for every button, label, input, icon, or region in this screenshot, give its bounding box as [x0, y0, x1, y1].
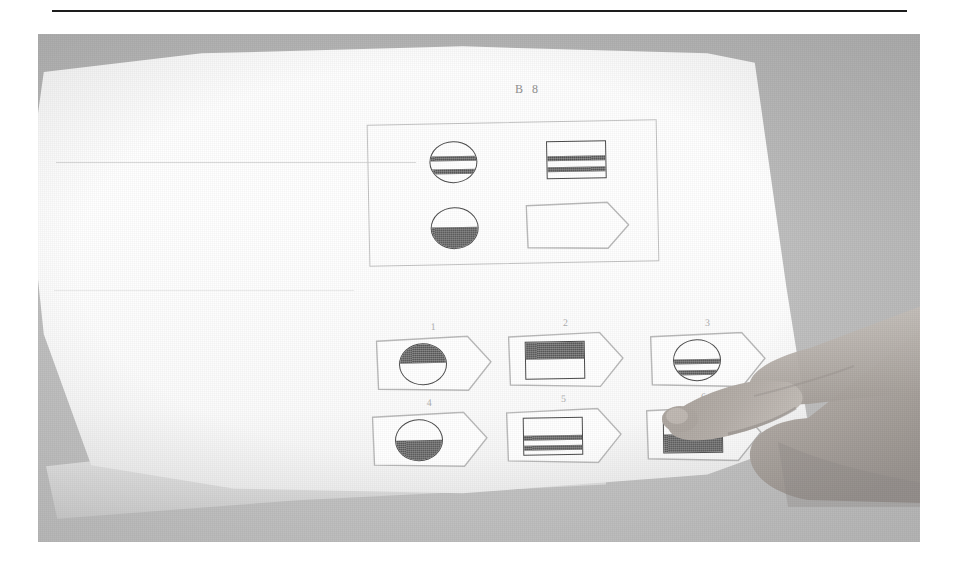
answer-option-1[interactable]: 1 — [375, 335, 492, 394]
page-print-rule-bottom — [54, 290, 354, 291]
stripe-lower — [673, 370, 722, 376]
answer-option-2[interactable]: 2 — [508, 331, 625, 389]
booklet-page: B 8 — [38, 44, 818, 512]
answer-option-5[interactable]: 5 — [506, 407, 623, 465]
answer-option-4[interactable]: 4 — [371, 411, 488, 469]
option-3-glyph — [664, 338, 731, 383]
page-print-rule-top — [56, 162, 416, 163]
rectangle-top-half-shape — [525, 341, 586, 380]
rectangle-two-stripes-shape — [546, 140, 607, 179]
option-4-glyph — [386, 418, 453, 463]
bottom-half-fill — [663, 434, 724, 454]
stripe-upper — [673, 359, 722, 365]
option-1-glyph — [390, 342, 457, 387]
stripe-upper — [429, 156, 478, 162]
matrix-cell-top-right — [516, 127, 637, 193]
rectangle-two-stripes-shape — [523, 417, 584, 456]
answer-option-3[interactable]: 3 — [650, 331, 767, 389]
top-horizontal-rule — [52, 10, 907, 12]
rectangle-bottom-half-shape — [663, 415, 724, 454]
circle-two-stripes-shape — [673, 339, 722, 382]
matrix-cell-bottom-right-empty — [517, 193, 638, 259]
option-number-5: 5 — [505, 392, 621, 405]
answer-option-6[interactable]: 6 — [646, 405, 763, 463]
stripe-upper — [523, 435, 584, 441]
item-heading: B 8 — [468, 82, 588, 97]
stripe-upper — [546, 155, 607, 161]
option-number-3: 3 — [649, 316, 765, 329]
top-half-fill — [399, 343, 448, 364]
top-half-fill — [525, 341, 586, 360]
problem-matrix-frame — [367, 119, 660, 267]
matrix-cell-bottom-left — [399, 195, 510, 261]
photograph: B 8 — [38, 34, 920, 542]
circle-top-half-shape — [399, 343, 448, 386]
empty-pentagon-shape — [525, 201, 630, 251]
circle-bottom-half-shape — [430, 207, 479, 250]
stripe-lower — [546, 166, 607, 172]
option-number-2: 2 — [507, 316, 623, 329]
circle-two-stripes-shape — [429, 141, 478, 184]
option-5-glyph — [520, 414, 587, 459]
bottom-half-fill — [430, 227, 479, 250]
bottom-half-fill — [395, 440, 444, 462]
option-number-6: 6 — [645, 390, 761, 403]
stripe-lower — [523, 445, 584, 451]
stripe-lower — [429, 169, 478, 175]
matrix-cell-top-left — [398, 129, 509, 195]
option-6-glyph — [660, 412, 727, 457]
option-number-1: 1 — [375, 320, 491, 334]
option-2-glyph — [522, 338, 589, 383]
circle-bottom-half-shape — [395, 419, 444, 462]
option-number-4: 4 — [371, 396, 487, 409]
